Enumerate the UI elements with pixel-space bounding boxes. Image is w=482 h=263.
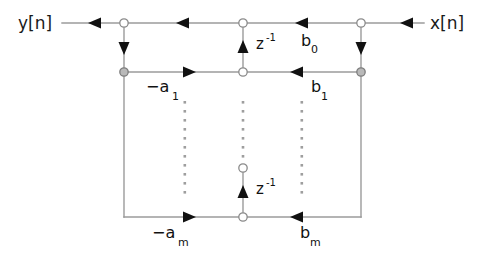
ellipsis-dot bbox=[301, 137, 304, 140]
ellipsis-dot bbox=[301, 155, 304, 158]
coefficient-am-label: −a m bbox=[152, 223, 189, 249]
arrow-left-top-mid bbox=[176, 18, 189, 29]
coefficient-a1-label: −a 1 bbox=[146, 77, 179, 103]
coefficient-bm-subscript: m bbox=[310, 236, 321, 249]
coefficient-b0-label: b 0 bbox=[301, 31, 318, 56]
ellipsis-dot bbox=[301, 146, 304, 149]
signal-flow-diagram: y[n] x[n] z -1 z -1 b 0 −a 1 b 1 bbox=[0, 0, 482, 263]
ellipsis-dot bbox=[184, 110, 187, 113]
ellipsis-dot bbox=[301, 173, 304, 176]
coefficient-a1-base: −a bbox=[146, 77, 169, 96]
coefficient-am-subscript: m bbox=[178, 236, 189, 249]
ellipsis-dot bbox=[184, 164, 187, 167]
node-output-junction bbox=[120, 19, 128, 27]
ellipsis-dot bbox=[301, 110, 304, 113]
ellipsis-column-left bbox=[184, 101, 187, 194]
ellipsis-dot bbox=[184, 119, 187, 122]
output-signal-label: y[n] bbox=[18, 13, 52, 33]
ellipsis-dot bbox=[184, 128, 187, 131]
delay-top-base: z bbox=[256, 35, 264, 53]
arrow-up-delay-top bbox=[238, 40, 249, 53]
coefficient-b1-base: b bbox=[311, 77, 321, 96]
node-center-stagem-junction bbox=[239, 213, 247, 221]
delay-bottom-label: z -1 bbox=[256, 177, 276, 198]
node-center-delay-input bbox=[239, 164, 247, 172]
delay-bottom-exponent: -1 bbox=[266, 177, 276, 188]
ellipsis-dot bbox=[301, 164, 304, 167]
ellipsis-dot bbox=[242, 101, 245, 104]
ellipsis-dot bbox=[184, 101, 187, 104]
ellipsis-dot bbox=[184, 173, 187, 176]
ellipsis-dot bbox=[184, 137, 187, 140]
arrow-down-right-rail bbox=[356, 42, 367, 55]
arrow-down-left-rail bbox=[119, 42, 130, 55]
arrow-up-delay-bottom bbox=[238, 185, 249, 198]
ellipsis-dot bbox=[184, 146, 187, 149]
arrow-right-am bbox=[183, 212, 196, 223]
ellipsis-dot bbox=[301, 128, 304, 131]
flow-graph-canvas: y[n] x[n] z -1 z -1 b 0 −a 1 b 1 bbox=[0, 0, 482, 263]
ellipsis-dot bbox=[242, 137, 245, 140]
node-right-stage1-junction bbox=[357, 68, 365, 76]
ellipsis-dot bbox=[301, 182, 304, 185]
ellipsis-dot bbox=[242, 146, 245, 149]
ellipsis-column-center bbox=[242, 101, 245, 158]
delay-top-label: z -1 bbox=[256, 32, 276, 53]
ellipsis-dot bbox=[184, 191, 187, 194]
node-left-stage1-junction bbox=[120, 68, 128, 76]
ellipsis-dot bbox=[301, 101, 304, 104]
left-feedback-rail bbox=[119, 23, 130, 217]
coefficient-b1-label: b 1 bbox=[311, 77, 328, 103]
delay-top-exponent: -1 bbox=[266, 32, 276, 43]
coefficient-b1-subscript: 1 bbox=[321, 90, 328, 103]
ellipsis-dot bbox=[301, 119, 304, 122]
arrow-left-top-right bbox=[295, 18, 308, 29]
ellipsis-dot bbox=[242, 128, 245, 131]
node-input-junction bbox=[357, 19, 365, 27]
coefficient-bm-base: b bbox=[300, 223, 310, 242]
ellipsis-dot bbox=[242, 119, 245, 122]
ellipsis-dot bbox=[301, 191, 304, 194]
coefficient-b0-subscript: 0 bbox=[311, 43, 318, 56]
arrow-left-input bbox=[400, 18, 413, 29]
coefficient-bm-label: b m bbox=[300, 223, 321, 249]
coefficient-a1-subscript: 1 bbox=[172, 90, 179, 103]
ellipsis-dot bbox=[242, 155, 245, 158]
right-feedforward-rail bbox=[356, 23, 367, 217]
ellipsis-dot bbox=[242, 110, 245, 113]
ellipsis-column-right bbox=[301, 101, 304, 194]
delay-bottom-base: z bbox=[256, 180, 264, 198]
coefficient-am-base: −a bbox=[152, 223, 175, 242]
node-top-center-junction bbox=[239, 19, 247, 27]
arrow-right-a1 bbox=[183, 67, 196, 78]
node-center-stage1-junction bbox=[239, 68, 247, 76]
input-signal-label: x[n] bbox=[430, 13, 464, 33]
ellipsis-dot bbox=[184, 155, 187, 158]
coefficient-b0-base: b bbox=[301, 31, 311, 50]
arrow-left-bm bbox=[290, 212, 303, 223]
ellipsis-dot bbox=[184, 182, 187, 185]
arrow-left-output bbox=[88, 18, 101, 29]
arrow-left-b1 bbox=[290, 67, 303, 78]
